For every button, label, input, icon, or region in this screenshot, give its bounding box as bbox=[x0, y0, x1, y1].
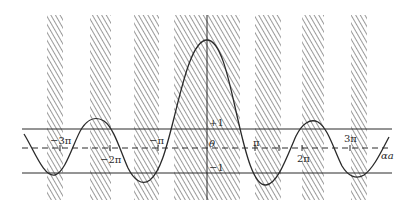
tick-label-2pi: 2π bbox=[297, 154, 310, 164]
label-minus-one: −1 bbox=[209, 163, 224, 173]
band-7 bbox=[351, 15, 367, 200]
tick-label-pi: π bbox=[253, 138, 260, 148]
axis-label-alpha-a: αa bbox=[381, 151, 394, 161]
label-plus-one: +1 bbox=[209, 118, 224, 128]
kronig-penney-diagram: −3π −2π −π +1 θ −1 π 2π 3π αa bbox=[0, 0, 414, 223]
tick-label-3pi: 3π bbox=[344, 134, 357, 144]
band-3 bbox=[134, 15, 159, 200]
tick-label-neg-2pi: −2π bbox=[100, 155, 121, 165]
label-theta: θ bbox=[209, 139, 215, 149]
band-2 bbox=[90, 15, 111, 200]
tick-label-neg-pi: −π bbox=[149, 136, 164, 146]
band-6 bbox=[302, 15, 324, 200]
band-5 bbox=[255, 15, 281, 200]
band-1 bbox=[47, 15, 63, 200]
diagram-canvas bbox=[0, 0, 414, 223]
tick-label-neg-3pi: −3π bbox=[50, 136, 71, 146]
